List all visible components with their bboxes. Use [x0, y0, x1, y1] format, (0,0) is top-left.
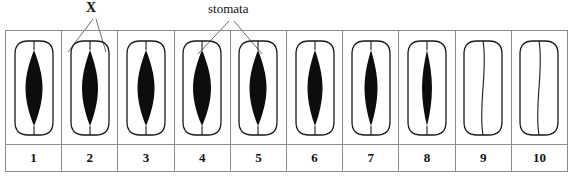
stoma-figure-4	[179, 36, 225, 140]
stoma-8-svg	[404, 36, 450, 140]
label-x: X	[86, 1, 96, 15]
number-label-9: 9	[456, 145, 512, 171]
number-row: 1 2 3 4 5 6 7 8 9 10	[6, 144, 567, 171]
label-stomata: stomata	[208, 2, 248, 15]
number-label-10: 10	[512, 145, 567, 171]
stoma-6-svg	[292, 36, 338, 140]
stoma-8-pore	[422, 50, 432, 126]
number-label-8: 8	[399, 145, 455, 171]
stomata-table: 1 2 3 4 5 6 7 8 9 10	[5, 30, 568, 172]
number-label-2: 2	[62, 145, 118, 171]
stoma-1-svg	[11, 36, 57, 140]
stomata-row	[6, 31, 567, 144]
stoma-6-pore	[307, 50, 322, 126]
stoma-cell-1	[6, 31, 62, 144]
stoma-1-pore	[25, 50, 42, 126]
stoma-9-closed-midline	[482, 41, 485, 135]
stoma-cell-4	[175, 31, 231, 144]
stoma-4-svg	[179, 36, 225, 140]
stoma-cell-10	[512, 31, 567, 144]
stoma-cell-2	[62, 31, 118, 144]
number-label-1: 1	[6, 145, 62, 171]
stoma-3-pore	[138, 50, 155, 126]
stoma-figure-8	[404, 36, 450, 140]
stoma-10-svg	[516, 36, 562, 140]
stoma-figure-6	[292, 36, 338, 140]
stoma-figure-3	[123, 36, 169, 140]
number-label-4: 4	[175, 145, 231, 171]
number-label-6: 6	[287, 145, 343, 171]
stoma-3-svg	[123, 36, 169, 140]
stoma-7-svg	[348, 36, 394, 140]
stoma-figure-10	[516, 36, 562, 140]
stoma-2-svg	[67, 36, 113, 140]
stoma-2-pore	[82, 50, 98, 126]
stoma-figure-2	[67, 36, 113, 140]
stoma-cell-3	[118, 31, 174, 144]
stoma-5-pore	[250, 50, 267, 126]
stoma-figure-7	[348, 36, 394, 140]
stoma-figure-5	[235, 36, 281, 140]
stoma-5-svg	[235, 36, 281, 140]
stoma-9-svg	[460, 36, 506, 140]
diagram-canvas: X stomata 1 2 3 4 5	[0, 0, 576, 181]
stoma-4-pore	[193, 50, 211, 126]
stoma-cell-6	[287, 31, 343, 144]
number-label-5: 5	[231, 145, 287, 171]
stoma-10-closed-midline	[538, 41, 541, 135]
number-label-3: 3	[118, 145, 174, 171]
stoma-figure-1	[11, 36, 57, 140]
stoma-7-pore	[364, 50, 377, 126]
stoma-cell-8	[399, 31, 455, 144]
stoma-cell-7	[343, 31, 399, 144]
stoma-cell-5	[231, 31, 287, 144]
stoma-figure-9	[460, 36, 506, 140]
number-label-7: 7	[343, 145, 399, 171]
stoma-cell-9	[456, 31, 512, 144]
